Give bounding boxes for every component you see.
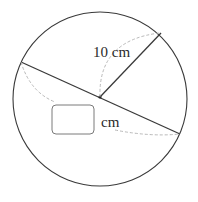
circle-diagram-svg: 10 cm cm bbox=[0, 0, 198, 202]
circle-figure: 10 cm cm bbox=[0, 0, 198, 202]
diameter-dashed-arc-right bbox=[115, 130, 180, 135]
circle-outline bbox=[13, 12, 187, 186]
radius-label: 10 cm bbox=[93, 44, 130, 60]
answer-box[interactable] bbox=[52, 105, 94, 134]
diameter-dashed-arc-left bbox=[21, 62, 55, 102]
radius-line bbox=[100, 33, 161, 97]
diameter-unit-label: cm bbox=[101, 114, 120, 130]
